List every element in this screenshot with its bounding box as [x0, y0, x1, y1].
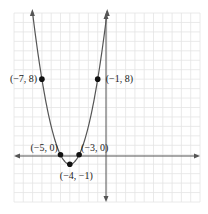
point-label: (−1, 8): [106, 73, 133, 85]
x-axis-left-arrow-icon: [14, 154, 20, 159]
data-point: [58, 152, 64, 158]
point-label: (−3, 0): [81, 142, 108, 154]
data-point: [95, 76, 101, 82]
point-label: (−4, −1): [60, 170, 93, 182]
labeled-points: (−7, 8)(−1, 8)(−5, 0)(−3, 0)(−4, −1): [10, 73, 133, 182]
point-label: (−7, 8): [10, 73, 37, 85]
parabola-chart: (−7, 8)(−1, 8)(−5, 0)(−3, 0)(−4, −1): [0, 0, 208, 214]
x-axis-right-arrow-icon: [194, 154, 200, 159]
data-point: [67, 161, 73, 167]
grid: [14, 13, 200, 202]
data-point: [39, 76, 45, 82]
y-axis-bottom-arrow-icon: [104, 196, 109, 202]
point-label: (−5, 0): [31, 142, 58, 154]
data-point: [76, 152, 82, 158]
